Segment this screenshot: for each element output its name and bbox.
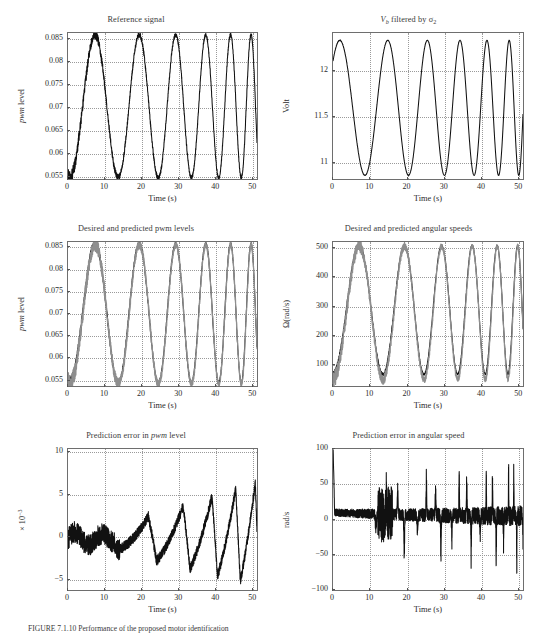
y-tick-mark	[332, 276, 335, 277]
y-tick-label: 11	[288, 157, 328, 166]
x-tick-label: 30	[432, 593, 456, 602]
x-axis-label: Time (s)	[67, 194, 258, 203]
y-tick-mark	[67, 357, 70, 358]
curve-layer	[333, 242, 523, 386]
data-series-reference-pwm	[68, 33, 257, 179]
y-tick-label: 0	[288, 514, 328, 523]
x-tick-label: 40	[469, 593, 493, 602]
y-tick-mark	[332, 335, 335, 336]
subplot-title: Prediction error in pwm level	[0, 431, 272, 440]
x-tick-mark	[407, 177, 408, 180]
x-tick-mark	[252, 177, 253, 180]
x-tick-label: 20	[129, 389, 153, 398]
subplot-vb-filtered: Vb filtered by σ2010203040501111.512Time…	[272, 4, 545, 209]
x-tick-label: 50	[506, 593, 530, 602]
x-tick-mark	[67, 384, 68, 387]
y-tick-label: 500	[288, 242, 328, 251]
y-tick-mark	[332, 448, 335, 449]
x-tick-label: 0	[55, 389, 79, 398]
x-tick-label: 40	[203, 593, 227, 602]
x-tick-mark	[104, 384, 105, 387]
x-tick-mark	[481, 384, 482, 387]
y-tick-label: −100	[288, 584, 328, 593]
x-tick-mark	[518, 384, 519, 387]
plot-area	[67, 448, 258, 591]
y-tick-mark	[67, 579, 70, 580]
x-tick-mark	[67, 177, 68, 180]
curve-layer	[333, 33, 523, 179]
y-tick-mark	[67, 313, 70, 314]
y-tick-label: 300	[288, 301, 328, 310]
x-tick-mark	[332, 177, 333, 180]
x-axis-label: Time (s)	[67, 605, 258, 614]
x-tick-mark	[369, 588, 370, 591]
x-tick-label: 10	[92, 182, 116, 191]
y-tick-mark	[67, 107, 70, 108]
subplot-reference-signal: Reference signal010203040500.0550.060.06…	[0, 4, 272, 209]
y-tick-mark	[67, 536, 70, 537]
subplot-prediction-error-pwm: Prediction error in pwm level01020304050…	[0, 420, 272, 620]
y-tick-label: 0.07	[23, 102, 63, 111]
y-tick-label: 100	[288, 443, 328, 452]
y-tick-label: 0.055	[23, 171, 63, 180]
subplot-prediction-error-omega: Prediction error in angular speed0102030…	[272, 420, 545, 620]
x-tick-mark	[104, 588, 105, 591]
x-tick-mark	[481, 177, 482, 180]
x-axis-label: Time (s)	[332, 401, 524, 410]
x-tick-label: 40	[203, 182, 227, 191]
x-tick-label: 40	[203, 389, 227, 398]
plot-area	[332, 241, 524, 387]
y-tick-label: 11.5	[288, 111, 328, 120]
subplot-title: Reference signal	[0, 15, 272, 24]
y-tick-mark	[67, 61, 70, 62]
y-tick-label: 0.085	[23, 241, 63, 250]
x-tick-label: 10	[357, 593, 381, 602]
figure-caption: FIGURE 7.1.10 Performance of the propose…	[28, 624, 229, 633]
x-tick-mark	[444, 384, 445, 387]
y-tick-label: 0.08	[23, 56, 63, 65]
y-tick-label: 400	[288, 271, 328, 280]
x-tick-label: 50	[506, 389, 530, 398]
x-tick-label: 30	[432, 182, 456, 191]
data-series-predicted-pwm	[68, 242, 257, 386]
x-tick-mark	[141, 384, 142, 387]
y-axis-label: pwm level	[17, 297, 26, 331]
y-tick-mark	[67, 494, 70, 495]
y-tick-mark	[67, 380, 70, 381]
y-tick-label: 0.065	[23, 125, 63, 134]
x-tick-mark	[104, 177, 105, 180]
subplot-title: Prediction error in angular speed	[272, 431, 545, 440]
x-tick-mark	[407, 384, 408, 387]
y-tick-label: 50	[288, 478, 328, 487]
subplot-title: Desired and predicted pwm levels	[0, 224, 272, 233]
y-axis-label: Volt	[282, 99, 291, 113]
y-tick-mark	[332, 70, 335, 71]
y-tick-label: 0.08	[23, 264, 63, 273]
y-tick-mark	[332, 116, 335, 117]
x-tick-mark	[178, 384, 179, 387]
y-tick-label: 0.075	[23, 286, 63, 295]
x-tick-label: 10	[357, 389, 381, 398]
x-tick-mark	[215, 384, 216, 387]
y-tick-mark	[332, 162, 335, 163]
x-tick-label: 0	[320, 182, 344, 191]
y-tick-label: 0.06	[23, 148, 63, 157]
x-tick-label: 0	[55, 182, 79, 191]
y-tick-label: 12	[288, 65, 328, 74]
x-tick-mark	[369, 177, 370, 180]
y-tick-label: 5	[23, 489, 63, 498]
y-tick-label: 0.055	[23, 375, 63, 384]
y-tick-label: 0.065	[23, 330, 63, 339]
y-tick-mark	[67, 130, 70, 131]
y-tick-mark	[67, 291, 70, 292]
y-tick-label: 0.085	[23, 33, 63, 42]
x-tick-label: 20	[395, 182, 419, 191]
y-tick-label: 0.075	[23, 79, 63, 88]
x-tick-label: 20	[129, 593, 153, 602]
curve-layer	[68, 242, 257, 386]
y-axis-label: Ω(rad/s)	[282, 300, 291, 328]
x-tick-label: 0	[55, 593, 79, 602]
y-tick-mark	[332, 247, 335, 248]
x-axis-label: Time (s)	[332, 194, 524, 203]
x-tick-mark	[215, 588, 216, 591]
